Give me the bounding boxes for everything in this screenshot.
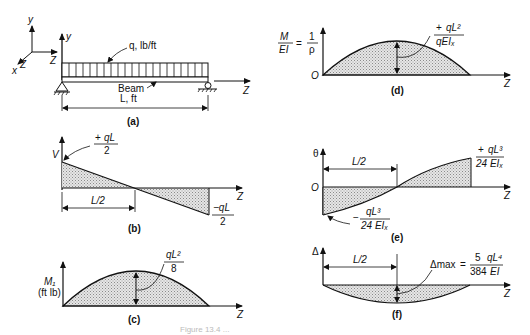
svg-text:=: = [296, 38, 302, 49]
shear-min-label: −qL 2 [212, 202, 234, 227]
slope-axis-label: θ [313, 148, 319, 159]
svg-text:qL²: qL² [446, 22, 461, 33]
panel-d-caption: (d) [391, 85, 404, 96]
svg-text:24 EIₓ: 24 EIₓ [475, 158, 503, 169]
svg-text:−qL: −qL [213, 202, 230, 213]
svg-text:2: 2 [104, 145, 110, 156]
svg-text:384: 384 [470, 266, 487, 277]
pin-support-icon [54, 82, 70, 95]
beam-y-axis-label: y [65, 31, 72, 42]
coordinate-axes-icon: y Z x [11, 14, 57, 76]
beam-z-axis-label: Z [242, 85, 250, 96]
moment-axis-units: (ft lb) [38, 287, 61, 298]
svg-text:Δmax: Δmax [430, 259, 456, 270]
deflection-half-span-label: L/2 [353, 254, 367, 265]
beam-diagram-figure: y Z x y Z [0, 0, 530, 335]
panel-d-curvature-diagram: Z O M EI = 1 ρ + qL² qEIₓ (d) [278, 22, 511, 96]
moment-max-label: qL² 8 [164, 249, 184, 274]
axis-y-label: y [27, 14, 34, 25]
shear-axis-label: V [52, 149, 60, 160]
slope-z-axis-label: Z [503, 190, 511, 201]
svg-text:−: − [353, 212, 359, 223]
svg-text:qL: qL [104, 132, 115, 143]
svg-text:qL³: qL³ [488, 144, 503, 155]
load-label: q, lb/ft [129, 40, 156, 51]
deflection-axis-label: Δ [312, 246, 319, 257]
svg-text:qEIₓ: qEIₓ [436, 36, 455, 47]
axis-z-label: Z [49, 55, 57, 66]
svg-text:M: M [280, 31, 289, 42]
svg-text:EI: EI [490, 266, 500, 277]
panel-a-loaded-beam: y Z x y Z [11, 14, 250, 127]
panel-b-shear-diagram: V Z + qL 2 −qL 2 L/2 (b) [52, 132, 244, 234]
curvature-max-label: + qL² qEIₓ [434, 22, 464, 47]
shear-half-span-label: L/2 [91, 195, 105, 206]
axis-x-label: x [11, 65, 18, 76]
svg-text:+: + [478, 144, 484, 155]
svg-text:2: 2 [220, 216, 226, 227]
svg-text:+: + [436, 22, 442, 33]
deflection-z-axis-label: Z [503, 288, 511, 299]
svg-text:qL⁴: qL⁴ [487, 252, 502, 263]
svg-text:ρ: ρ [309, 44, 315, 55]
shear-z-axis-label: Z [236, 191, 244, 202]
panel-f-deflection-diagram: Δ Z L/2 Δmax = 5 qL⁴ 384 EI (f) [312, 246, 511, 320]
figure-caption: Figure 13.4 ... [180, 325, 229, 334]
panel-c-moment-diagram: Z M₁ (ft lb) qL² 8 (c) [38, 249, 244, 325]
shear-max-label: + qL 2 [64, 132, 118, 160]
slope-half-span-label: L/2 [352, 156, 366, 167]
panel-e-caption: (e) [391, 232, 403, 243]
panel-e-slope-diagram: θ O Z L/2 + qL³ 24 EIₓ − qL³ 24 EIₓ (e) [311, 144, 511, 243]
svg-text:qL³: qL³ [366, 206, 381, 217]
panel-c-caption: (c) [128, 314, 140, 325]
deflection-max-label: Δmax = 5 qL⁴ 384 EI [430, 252, 503, 277]
svg-text:24 EIₓ: 24 EIₓ [360, 220, 388, 231]
svg-text:1: 1 [309, 31, 315, 42]
moment-axis-label: M₁ [44, 276, 55, 287]
curvature-axis-label: M EI = 1 ρ [278, 31, 318, 55]
svg-text:8: 8 [171, 263, 177, 274]
roller-support-icon [198, 83, 217, 93]
curvature-z-axis-label: Z [503, 78, 511, 89]
panel-f-caption: (f) [392, 309, 402, 320]
curvature-origin-label: O [311, 70, 319, 81]
moment-z-axis-label: Z [236, 309, 244, 320]
span-label: L, ft [120, 93, 137, 104]
svg-text:EI: EI [279, 44, 289, 55]
svg-text:+: + [95, 132, 101, 143]
panel-b-caption: (b) [128, 223, 141, 234]
panel-a-caption: (a) [127, 116, 139, 127]
slope-origin-label: O [311, 182, 319, 193]
beam-z-label-left: Z [19, 59, 27, 70]
beam [62, 77, 208, 82]
svg-text:5: 5 [475, 252, 481, 263]
distributed-load [62, 63, 208, 77]
slope-max-label: + qL³ 24 EIₓ [475, 144, 504, 169]
svg-text:=: = [460, 259, 466, 270]
svg-text:qL²: qL² [166, 249, 181, 260]
